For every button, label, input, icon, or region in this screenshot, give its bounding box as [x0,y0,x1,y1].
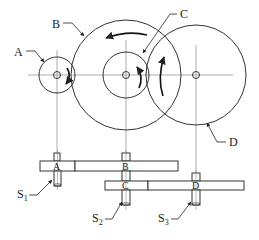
side-label-b: B [122,161,129,172]
leader-a [26,51,44,62]
leader-d [207,123,226,142]
shaft-label-s1: S1 [17,187,28,203]
side-label-d: D [192,180,199,191]
rotation-arrow-c [137,67,141,88]
rotation-arrow-d [160,57,164,96]
leader-b [63,23,84,36]
label-c: C [180,7,188,21]
svg-text:S2: S2 [92,211,103,227]
label-d: D [229,135,238,149]
label-a: A [14,45,23,59]
rotation-arrow-b [106,33,147,38]
rotation-arrow-a [66,68,69,84]
side-label-c: C [122,180,129,191]
shaft-label-s3: S3 [158,211,169,227]
label-b: B [52,17,60,31]
svg-text:S1: S1 [17,187,28,203]
side-view [40,150,244,210]
rotation-arrows [66,33,164,96]
shaft-label-s2: S2 [92,211,103,227]
shaft-a-top [54,153,60,161]
leader-c [143,14,177,53]
gear-train-diagram: A B C D A B C [0,0,259,240]
svg-text:S3: S3 [158,211,169,227]
side-label-a: A [53,161,61,172]
